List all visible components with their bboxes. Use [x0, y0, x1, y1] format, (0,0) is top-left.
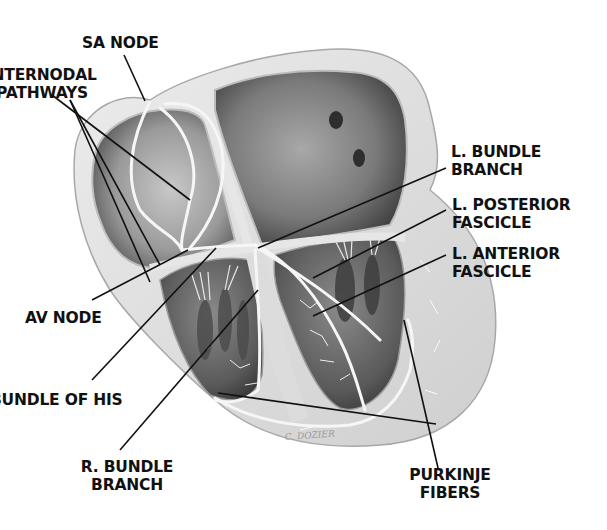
label-text: PURKINJE	[400, 466, 500, 484]
heart-conduction-diagram: C. DOZIER SA NODE	[0, 0, 607, 530]
label-purkinje-fibers: PURKINJE FIBERS	[400, 466, 500, 502]
label-text: BRANCH	[72, 476, 182, 494]
label-text: INTERNODAL	[0, 66, 97, 84]
pulmonary-vein-opening	[329, 111, 343, 129]
label-l-posterior-fascicle: L. POSTERIOR FASCICLE	[452, 196, 570, 232]
label-text: L. BUNDLE	[451, 143, 541, 161]
label-sa-node: SA NODE	[82, 34, 159, 52]
label-text: BUNDLE OF HIS	[0, 391, 123, 409]
label-av-node: AV NODE	[25, 309, 102, 327]
label-text: AV NODE	[25, 309, 102, 327]
label-text: FASCICLE	[452, 263, 560, 281]
label-text: L. POSTERIOR	[452, 196, 570, 214]
label-l-anterior-fascicle: L. ANTERIOR FASCICLE	[452, 245, 560, 281]
label-text: SA NODE	[82, 34, 159, 52]
label-bundle-of-his: BUNDLE OF HIS	[0, 391, 123, 409]
label-text: PATHWAYS	[0, 84, 97, 102]
label-text: FASCICLE	[452, 214, 570, 232]
label-internodal-pathways: INTERNODAL PATHWAYS	[0, 66, 97, 102]
label-text: R. BUNDLE	[72, 458, 182, 476]
label-r-bundle-branch: R. BUNDLE BRANCH	[72, 458, 182, 494]
pulmonary-vein-opening	[353, 149, 365, 167]
label-text: L. ANTERIOR	[452, 245, 560, 263]
label-text: FIBERS	[400, 484, 500, 502]
label-text: BRANCH	[451, 161, 541, 179]
label-l-bundle-branch: L. BUNDLE BRANCH	[451, 143, 541, 179]
